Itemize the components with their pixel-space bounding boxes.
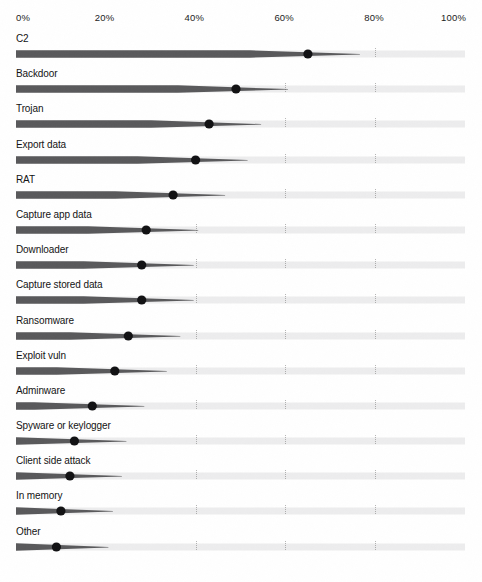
chart-row: Client side attack [0,455,482,490]
chart-row: Downloader [0,244,482,279]
gridline-mark-80 [375,541,376,550]
chart-row: Exploit vuln [0,350,482,385]
gridline-mark-80 [375,400,376,409]
bar-track-area [16,294,465,306]
chart-row: Backdoor [0,68,482,103]
bar-graphic [16,259,465,271]
x-axis-tick-100: 100% [441,12,466,24]
value-marker-dot [191,155,200,164]
gridline-mark-80 [375,365,376,374]
chart-row: Capture app data [0,209,482,244]
value-marker-dot [303,49,312,58]
gridline-mark-60 [285,505,286,514]
value-marker-dot [56,507,65,516]
value-marker-dot [231,85,240,94]
bar-category-label: Adminware [16,385,65,397]
bar-category-label: Backdoor [16,68,57,80]
gridline-mark-80 [375,48,376,57]
value-marker-dot [137,261,146,270]
bar-graphic [16,154,465,166]
gridline-mark-80 [375,224,376,233]
gridline-mark-60 [285,541,286,550]
value-marker-dot [70,436,79,445]
value-marker-dot [142,225,151,234]
x-axis: 0%20%40%60%80%100% [0,12,482,28]
bar-category-label: Other [16,526,41,538]
bar-category-label: Capture app data [16,209,92,221]
bar-graphic [16,400,465,412]
gridline-mark-40 [196,400,197,409]
gridline-mark-60 [285,435,286,444]
bar-category-label: Trojan [16,103,43,115]
x-axis-tick-20: 20% [95,12,115,24]
bar-graphic [16,435,465,447]
x-axis-tick-80: 80% [364,12,384,24]
chart-row: Other [0,526,482,561]
gridline-mark-40 [196,259,197,268]
gridline-mark-60 [285,154,286,163]
gridline-mark-80 [375,259,376,268]
bar-category-label: Spyware or keylogger [16,420,111,432]
bar-category-label: RAT [16,174,35,186]
bar-track-area [16,224,465,236]
value-marker-dot [205,120,214,129]
bar-track-area [16,505,465,517]
chart-row: Export data [0,139,482,174]
bar-graphic [16,470,465,482]
gridline-mark-80 [375,470,376,479]
gridline-mark-80 [375,505,376,514]
bar-track-area [16,400,465,412]
chart-row: Spyware or keylogger [0,420,482,455]
value-marker-dot [88,401,97,410]
bar-category-label: Ransomware [16,315,74,327]
gridline-mark-60 [285,83,286,92]
chart-row: RAT [0,174,482,209]
bar-graphic [16,330,465,342]
bar-track-area [16,470,465,482]
bar-graphic [16,83,465,95]
value-marker-dot [65,472,74,481]
bar-track-area [16,259,465,271]
bar-category-label: In memory [16,490,62,502]
chart-row: Ransomware [0,315,482,350]
chart-row: Adminware [0,385,482,420]
gridline-mark-60 [285,365,286,374]
bar-category-label: Downloader [16,244,68,256]
bar-category-label: Client side attack [16,455,90,467]
gridline-mark-40 [196,541,197,550]
gridline-mark-40 [196,365,197,374]
bar-track-area [16,83,465,95]
bar-graphic [16,189,465,201]
gridline-mark-60 [285,294,286,303]
gridline-mark-40 [196,330,197,339]
chart-row: Trojan [0,103,482,138]
gridline-mark-60 [285,259,286,268]
value-marker-dot [169,190,178,199]
gridline-mark-60 [285,330,286,339]
x-axis-tick-40: 40% [185,12,205,24]
bar-graphic [16,365,465,377]
gridline-mark-60 [285,189,286,198]
bar-track-area [16,435,465,447]
bar-category-label: Exploit vuln [16,350,66,362]
bar-graphic [16,294,465,306]
gridline-mark-40 [196,224,197,233]
bar-track-area [16,330,465,342]
gridline-mark-40 [196,435,197,444]
bar-track-area [16,118,465,130]
gridline-mark-80 [375,83,376,92]
gridline-mark-40 [196,505,197,514]
bar-graphic [16,541,465,553]
gridline-mark-80 [375,435,376,444]
gridline-mark-60 [285,224,286,233]
value-marker-dot [124,331,133,340]
gridline-mark-60 [285,118,286,127]
bar-category-label: Export data [16,139,66,151]
bar-track-area [16,189,465,201]
bar-track-area [16,154,465,166]
value-marker-dot [110,366,119,375]
value-marker-dot [137,296,146,305]
gridline-mark-60 [285,470,286,479]
chart-row: C2 [0,33,482,68]
chart-rows: C2BackdoorTrojanExport dataRATCapture ap… [0,33,482,561]
